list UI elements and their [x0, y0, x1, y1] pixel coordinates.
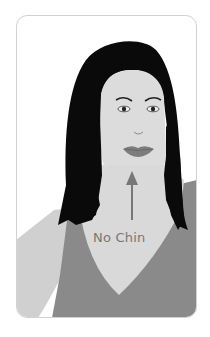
illustration-card	[16, 15, 197, 318]
no-chin-label: No Chin	[93, 230, 145, 245]
right-pupil	[151, 107, 155, 111]
stage: No Chin	[0, 0, 210, 337]
face-illustration	[16, 15, 197, 318]
left-pupil	[122, 107, 126, 111]
